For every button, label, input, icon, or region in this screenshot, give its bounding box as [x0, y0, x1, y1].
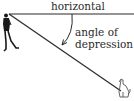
horizontal-label: horizontal	[51, 0, 106, 12]
angle-of-depression-diagram: horizontal angle of depression	[0, 0, 134, 101]
angle-label-line1: angle of	[75, 26, 119, 38]
angle-label-line2: depression	[75, 38, 133, 50]
angle-arc-arrow	[62, 14, 72, 45]
dog-icon	[119, 79, 130, 97]
